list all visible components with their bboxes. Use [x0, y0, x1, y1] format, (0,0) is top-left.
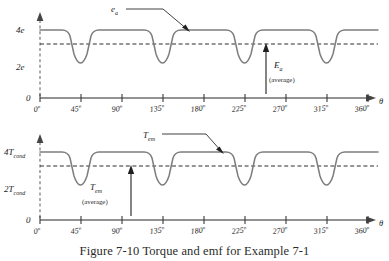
emf-curve-leader-line: [126, 9, 188, 30]
emf-tick-45: 45º: [70, 104, 82, 114]
torque-tick-180: 180º: [190, 225, 206, 236]
emf-tick-135: 135º: [149, 103, 165, 114]
torque-tick-270: 270º: [272, 225, 288, 236]
figure-caption: Figure 7-10 Torque and emf for Example 7…: [0, 244, 389, 259]
torque-tick-225: 225º: [231, 225, 247, 236]
torque-x-tick-labels: 0º 45º 90º 135º 180º 225º 270º 315º 360º: [33, 225, 370, 236]
torque-tick-0: 0º: [33, 226, 41, 236]
emf-x-axis-symbol: θ: [379, 96, 383, 106]
torque-average-sublabel: (average): [82, 198, 108, 206]
torque-tick-135: 135º: [149, 225, 165, 236]
torque-y-label-2T: 2Tcond: [4, 184, 26, 196]
torque-tick-315: 315º: [312, 225, 329, 236]
emf-y-axis-arrowhead: [37, 12, 44, 21]
emf-y-label-2e: 2e: [16, 62, 25, 72]
torque-curve-leader-arrowhead: [216, 147, 224, 154]
emf-chart: 4e 2e 0 0º 45º 90º 135º 180º 225º 270º 3…: [0, 0, 389, 122]
emf-y-label-0: 0: [26, 93, 31, 103]
torque-y-axis-arrowhead: [37, 134, 44, 143]
emf-tick-0: 0º: [33, 104, 41, 114]
torque-tick-90: 90º: [111, 226, 123, 236]
torque-y-label-4T: 4Tcond: [4, 147, 26, 159]
torque-average-label: Tem: [90, 182, 103, 194]
emf-tick-360: 360º: [353, 103, 370, 114]
torque-waveform: [40, 152, 378, 185]
emf-average-sublabel: (average): [269, 76, 295, 84]
torque-curve-leader-line: [162, 134, 222, 152]
torque-tick-45: 45º: [70, 226, 82, 236]
emf-y-label-4e: 4e: [16, 25, 25, 35]
torque-chart: 4Tcond 2Tcond 0 0º 45º 90º 135º 180º 225…: [0, 120, 389, 246]
emf-tick-180: 180º: [190, 103, 206, 114]
emf-tick-90: 90º: [111, 104, 123, 114]
torque-curve-label: Tem: [143, 130, 156, 142]
emf-average-label: Ea: [273, 60, 283, 72]
emf-x-tick-labels: 0º 45º 90º 135º 180º 225º 270º 315º 360º: [33, 103, 370, 114]
torque-tick-360: 360º: [353, 225, 370, 236]
emf-tick-270: 270º: [272, 103, 288, 114]
torque-y-label-0: 0: [26, 215, 31, 225]
emf-tick-315: 315º: [312, 103, 329, 114]
emf-tick-225: 225º: [231, 103, 247, 114]
figure-7-10: 4e 2e 0 0º 45º 90º 135º 180º 225º 270º 3…: [0, 0, 389, 261]
torque-x-axis-symbol: θ: [379, 218, 383, 228]
emf-waveform: [40, 30, 378, 63]
emf-curve-label: ea: [111, 4, 118, 16]
